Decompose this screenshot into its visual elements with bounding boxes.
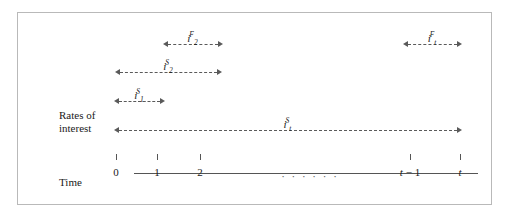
arrow-itF: iFt — [403, 38, 462, 52]
axis-tick — [200, 154, 201, 160]
figure-frame: Rates of interest Time iF2iFtiS2iS1iSt 0… — [17, 12, 492, 205]
axis-tick-label: t − 1 — [400, 166, 420, 178]
axis-tick — [157, 154, 158, 160]
arrow-line — [119, 130, 457, 131]
rates-of-interest-label: Rates of interest — [59, 109, 95, 135]
axis-tick-label: 0 — [113, 166, 119, 178]
arrow-head-right-icon — [218, 41, 223, 47]
arrow-i1S-label: iS1 — [131, 89, 148, 101]
arrow-itS: iSt — [114, 124, 462, 138]
arrow-head-right-icon — [217, 69, 222, 75]
axis-tick-label: t — [458, 166, 461, 178]
arrow-head-left-icon — [114, 98, 119, 104]
arrow-itS-label: iSt — [281, 118, 296, 130]
arrow-i2S: iS2 — [115, 66, 222, 80]
axis-ellipsis: · · · · · · — [281, 170, 339, 182]
axis-tick — [460, 154, 461, 160]
arrow-head-left-icon — [163, 41, 168, 47]
arrow-head-right-icon — [457, 41, 462, 47]
arrow-head-right-icon — [160, 98, 165, 104]
time-axis-label: Time — [59, 176, 82, 189]
arrow-head-left-icon — [114, 127, 119, 133]
arrow-head-left-icon — [403, 41, 408, 47]
arrow-i2F-label: iF2 — [184, 32, 201, 44]
arrow-head-left-icon — [115, 69, 120, 75]
arrow-i1S: iS1 — [114, 95, 165, 109]
arrow-line — [408, 44, 457, 45]
axis-tick-label: 1 — [154, 166, 160, 178]
arrow-head-right-icon — [457, 127, 462, 133]
axis-tick — [410, 154, 411, 160]
arrow-itF-label: iFt — [425, 32, 441, 44]
arrow-i2F: iF2 — [163, 38, 223, 52]
axis-tick — [116, 154, 117, 160]
interest-rate-timeline-figure: Rates of interest Time iF2iFtiS2iS1iSt 0… — [0, 0, 510, 224]
arrow-line — [168, 44, 218, 45]
arrow-i2S-label: iS2 — [160, 60, 177, 72]
axis-tick-label: 2 — [197, 166, 203, 178]
